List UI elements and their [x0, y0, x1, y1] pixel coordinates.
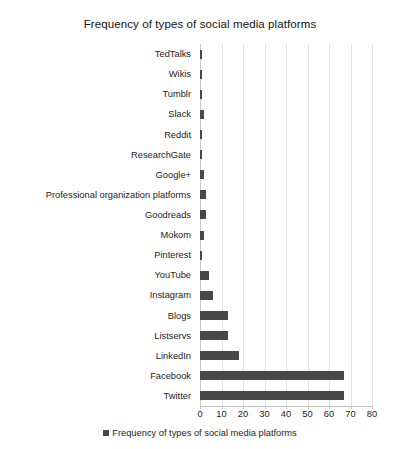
x-tick-mark-30 — [265, 406, 266, 409]
y-axis-label: YouTube — [0, 270, 196, 280]
bar — [200, 351, 239, 360]
y-axis-label: Slack — [0, 109, 196, 119]
y-axis-label: Instagram — [0, 290, 196, 300]
y-axis-label: Wikis — [0, 69, 196, 79]
bar — [200, 231, 204, 240]
bar — [200, 150, 202, 159]
x-tick-label: 10 — [210, 409, 234, 419]
y-axis-label: ResearchGate — [0, 150, 196, 160]
gridline-70 — [351, 44, 352, 406]
y-axis-label: Mokom — [0, 230, 196, 240]
y-axis-label: Tumblr — [0, 89, 196, 99]
x-tick-mark-60 — [329, 406, 330, 409]
y-axis-category-labels: TedTalksWikisTumblrSlackRedditResearchGa… — [0, 44, 196, 406]
x-tick-label: 50 — [296, 409, 320, 419]
bar — [200, 331, 228, 340]
bar — [200, 190, 206, 199]
x-tick-label: 60 — [317, 409, 341, 419]
bar — [200, 271, 209, 280]
bar — [200, 110, 204, 119]
bar — [200, 251, 202, 260]
bar — [200, 311, 228, 320]
y-axis-label: Pinterest — [0, 250, 196, 260]
y-axis-label: Twitter — [0, 391, 196, 401]
bar — [200, 90, 202, 99]
bar — [200, 371, 344, 380]
legend-swatch-icon — [103, 430, 109, 436]
y-axis-label: Goodreads — [0, 210, 196, 220]
bar — [200, 50, 202, 59]
x-tick-mark-10 — [222, 406, 223, 409]
y-axis-label: LinkedIn — [0, 351, 196, 361]
gridline-40 — [286, 44, 287, 406]
y-axis-label: Blogs — [0, 311, 196, 321]
gridline-50 — [308, 44, 309, 406]
bar-chart: Frequency of types of social media platf… — [0, 0, 400, 449]
x-tick-mark-70 — [351, 406, 352, 409]
x-tick-label: 70 — [339, 409, 363, 419]
x-tick-mark-20 — [243, 406, 244, 409]
chart-title: Frequency of types of social media platf… — [0, 18, 400, 30]
y-axis-label: TedTalks — [0, 49, 196, 59]
x-tick-mark-80 — [372, 406, 373, 409]
bar — [200, 70, 202, 79]
plot-area — [200, 44, 372, 406]
bar — [200, 170, 204, 179]
x-tick-label: 30 — [253, 409, 277, 419]
x-tick-label: 0 — [188, 409, 212, 419]
bar — [200, 130, 202, 139]
y-axis-label: Listservs — [0, 331, 196, 341]
x-tick-mark-40 — [286, 406, 287, 409]
y-axis-label: Reddit — [0, 130, 196, 140]
x-axis-tick-labels: 01020304050607080 — [0, 409, 400, 423]
legend-label: Frequency of types of social media platf… — [112, 428, 296, 438]
gridline-60 — [329, 44, 330, 406]
chart-legend: Frequency of types of social media platf… — [0, 428, 400, 438]
gridline-80 — [372, 44, 373, 406]
x-tick-label: 40 — [274, 409, 298, 419]
bar — [200, 210, 206, 219]
x-tick-label: 80 — [360, 409, 384, 419]
plot-wrapper: TedTalksWikisTumblrSlackRedditResearchGa… — [0, 44, 400, 406]
y-axis-label: Google+ — [0, 170, 196, 180]
x-tick-label: 20 — [231, 409, 255, 419]
x-tick-mark-0 — [200, 406, 201, 409]
bar — [200, 391, 344, 400]
gridline-20 — [243, 44, 244, 406]
y-axis-label: Facebook — [0, 371, 196, 381]
y-axis-label: Professional organization platforms — [0, 190, 196, 200]
x-tick-mark-50 — [308, 406, 309, 409]
gridline-30 — [265, 44, 266, 406]
bar — [200, 291, 213, 300]
